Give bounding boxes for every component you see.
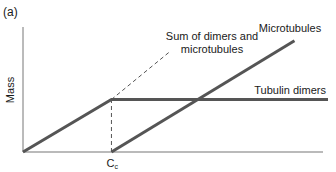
x-tick-label: Cc — [106, 157, 118, 170]
panel-label: (a) — [3, 5, 18, 19]
annotation-sum-of-dimers-and-microtubules: Sum of dimers andmicrotubules — [166, 30, 258, 55]
series-tubulin-dimers — [23, 100, 328, 153]
chart: (a) Mass Cc Sum of dimers andmicrotubule… — [0, 0, 336, 172]
annotation-microtubules: Microtubules — [259, 22, 322, 34]
series-sum-of-dimers-and-microtubules — [111, 52, 169, 100]
y-axis-label: Mass — [4, 76, 16, 103]
annotation-tubulin-dimers: Tubulin dimers — [254, 84, 326, 96]
series-microtubules — [111, 41, 294, 152]
